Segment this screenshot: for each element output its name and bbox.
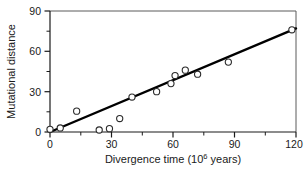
data-point	[74, 108, 80, 114]
data-point	[57, 125, 63, 131]
data-point	[195, 71, 201, 77]
x-axis-title-tail: years)	[207, 153, 241, 165]
data-point	[96, 127, 102, 133]
data-point	[106, 126, 112, 132]
x-tick-label-120: 120	[285, 138, 303, 150]
y-tick-label-30: 30	[29, 86, 41, 98]
data-point	[182, 67, 188, 73]
data-point	[47, 126, 53, 132]
x-axis-title: Divergence time (106 years)	[105, 152, 241, 165]
y-tick-label-90: 90	[29, 5, 41, 17]
y-axis-title: Mutational distance	[5, 24, 17, 119]
x-tick-label-0: 0	[47, 138, 53, 150]
x-axis-title-base: Divergence time (10	[105, 153, 203, 165]
data-point	[225, 59, 231, 65]
x-tick-label-30: 30	[106, 138, 118, 150]
data-point	[117, 115, 123, 121]
data-point	[168, 81, 174, 87]
data-point	[154, 89, 160, 95]
x-tick-label-60: 60	[167, 138, 179, 150]
data-point	[129, 94, 135, 100]
data-point	[289, 27, 295, 33]
y-tick-label-60: 60	[29, 45, 41, 57]
data-point	[172, 72, 178, 78]
scatter-plot-figure: 0 30 60 90 Mutational distance 0 30 60	[0, 0, 308, 170]
chart-canvas: 0 30 60 90 Mutational distance 0 30 60	[0, 0, 308, 170]
x-tick-label-90: 90	[229, 138, 241, 150]
y-tick-label-0: 0	[35, 126, 41, 138]
